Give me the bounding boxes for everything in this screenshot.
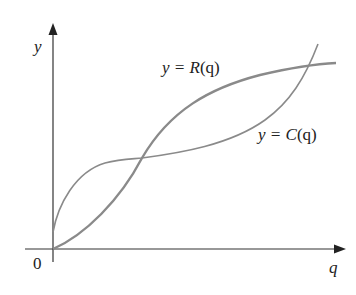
y-axis-arrow-icon xyxy=(49,23,58,35)
cost-label-arg: (q) xyxy=(297,125,317,144)
revenue-label-func: R xyxy=(189,58,201,77)
cost-label-func: C xyxy=(286,125,298,144)
cost-curve-label: y = C(q) xyxy=(256,125,317,144)
x-axis-label: q xyxy=(329,258,338,277)
revenue-label-arg: (q) xyxy=(200,58,220,77)
y-axis-label: y xyxy=(32,37,42,56)
revenue-curve-label: y = R(q) xyxy=(160,58,220,77)
cost-label-prefix: y = xyxy=(256,125,286,144)
revenue-label-prefix: y = xyxy=(160,58,190,77)
origin-label: 0 xyxy=(33,254,42,273)
x-axis-arrow-icon xyxy=(334,245,346,254)
revenue-cost-graph: y q 0 y = R(q) y = C(q) xyxy=(0,0,356,295)
